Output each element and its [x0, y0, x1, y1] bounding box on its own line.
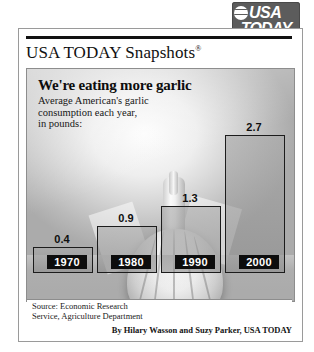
year-label-1970: 1970 [47, 255, 87, 269]
source-box: Source: Economic Research Service, Agric… [27, 299, 292, 324]
year-label-1980: 1980 [111, 255, 151, 269]
header-rule [26, 36, 292, 39]
source-line-2: Service, Agriculture Department [32, 312, 282, 322]
bar-value-2000: 2.7 [225, 121, 283, 133]
subtitle-line-2: consumption each year, [38, 107, 188, 119]
snapshots-title: USA TODAY Snapshots® [26, 43, 292, 65]
subtitle-line-1: Average American's garlic [38, 95, 188, 107]
snapshots-title-text: USA TODAY Snapshots [26, 43, 195, 62]
bar-value-1990: 1.3 [161, 192, 219, 204]
registered-mark: ® [195, 44, 201, 53]
credit-line: By Hilary Wasson and Suzy Parker, USA TO… [26, 325, 294, 335]
subtitle: Average American's garlic consumption ea… [38, 95, 188, 130]
bar-value-1970: 0.4 [33, 233, 91, 245]
subtitle-line-3: in pounds: [38, 118, 188, 130]
page-title: We're eating more garlic [38, 77, 238, 94]
logo-usa-text: USA [249, 5, 281, 21]
logo-top-row: USA [232, 4, 300, 21]
source-text: Source: Economic Research Service, Agric… [32, 302, 282, 321]
snapshot-infographic: USA TODAY USA TODAY Snapshots® [0, 0, 314, 352]
bar-2000 [225, 135, 285, 273]
globe-icon [234, 6, 248, 20]
chart-panel: We're eating more garlic Average America… [26, 68, 295, 302]
bar-value-1980: 0.9 [97, 212, 155, 224]
year-label-2000: 2000 [239, 255, 279, 269]
year-label-1990: 1990 [175, 255, 215, 269]
